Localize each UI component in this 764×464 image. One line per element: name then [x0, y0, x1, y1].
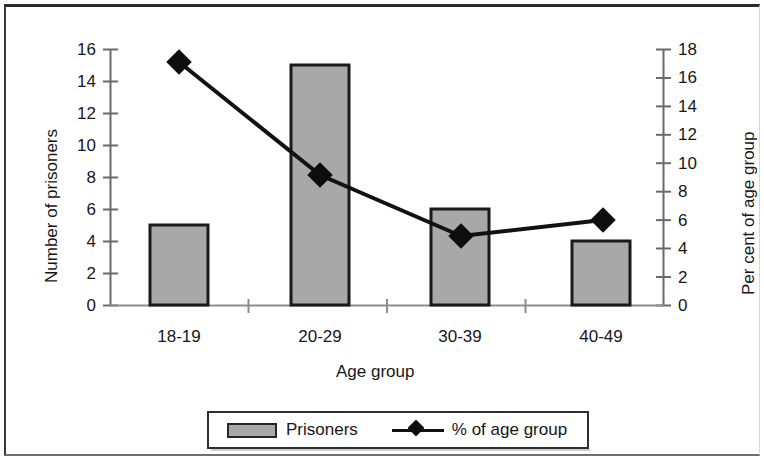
bar-30-39 [431, 209, 489, 305]
left-tick-0: 0 [62, 297, 96, 314]
x-tick-40-49: 40-49 [556, 327, 646, 347]
left-tick-2: 2 [62, 265, 96, 282]
bar-group [150, 65, 630, 305]
legend-item-prisoners: Prisoners [227, 420, 358, 440]
right-tick-2: 2 [678, 269, 712, 286]
left-tick-4: 4 [62, 233, 96, 250]
right-tick-6: 6 [678, 212, 712, 229]
percent-markers [166, 49, 615, 248]
legend-label-percent: % of age group [452, 420, 567, 440]
x-axis-title: Age group [336, 362, 414, 382]
left-tick-16: 16 [62, 41, 96, 58]
chart-legend: Prisoners % of age group [207, 411, 589, 449]
y2-axis-title: Per cent of age group [739, 131, 759, 295]
right-tick-10: 10 [678, 155, 712, 172]
left-tick-14: 14 [62, 73, 96, 90]
x-tick-18-19: 18-19 [134, 327, 224, 347]
x-tick-30-39: 30-39 [415, 327, 505, 347]
left-tick-12: 12 [62, 105, 96, 122]
marker-40-49 [590, 207, 615, 232]
legend-swatch-icon [227, 423, 277, 438]
left-tick-6: 6 [62, 201, 96, 218]
left-tick-10: 10 [62, 137, 96, 154]
right-tick-8: 8 [678, 183, 712, 200]
right-tick-18: 18 [678, 41, 712, 58]
legend-item-percent: % of age group [392, 420, 567, 440]
right-tick-4: 4 [678, 240, 712, 257]
y-axis-title: Number of prisoners [42, 129, 62, 283]
legend-line-diamond-icon [392, 422, 444, 438]
right-tick-14: 14 [678, 98, 712, 115]
bar-40-49 [572, 241, 630, 305]
right-tick-16: 16 [678, 69, 712, 86]
right-tick-0: 0 [678, 297, 712, 314]
legend-label-prisoners: Prisoners [286, 420, 358, 440]
percent-line [179, 62, 603, 236]
left-tick-8: 8 [62, 169, 96, 186]
chart-figure: 16 14 12 10 8 6 4 2 0 18 16 14 12 10 8 6… [0, 0, 764, 464]
x-tick-20-29: 20-29 [275, 327, 365, 347]
bar-18-19 [150, 225, 208, 305]
plot-canvas [0, 0, 764, 464]
right-tick-12: 12 [678, 126, 712, 143]
